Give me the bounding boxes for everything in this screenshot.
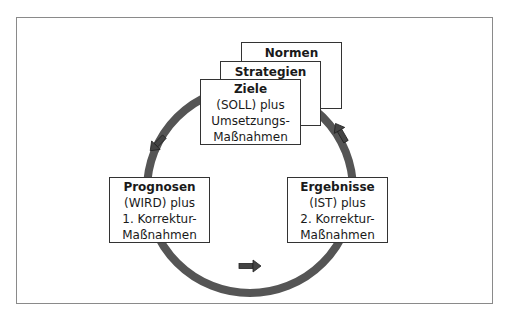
prognosen-box: Prognosen (WIRD) plus 1. Korrektur- Maßn… — [109, 177, 210, 243]
right-arrow-icon — [239, 260, 261, 272]
ergebnisse-box: Ergebnisse (IST) plus 2. Korrektur- Maßn… — [287, 177, 388, 243]
ergebnisse-line-2: 2. Korrektur- — [288, 211, 387, 227]
strategien-title: Strategien — [221, 62, 320, 80]
ziele-line-2: Umsetzungs- — [201, 113, 300, 129]
prognosen-line-1: (WIRD) plus — [110, 195, 209, 211]
normen-title: Normen — [242, 43, 341, 61]
ziele-line-1: (SOLL) plus — [201, 97, 300, 113]
ergebnisse-line-1: (IST) plus — [288, 195, 387, 211]
ziele-line-3: Maßnahmen — [201, 129, 300, 145]
prognosen-line-2: 1. Korrektur- — [110, 211, 209, 227]
ergebnisse-line-3: Maßnahmen — [288, 227, 387, 243]
prognosen-title: Prognosen — [110, 179, 209, 195]
ziele-box: Ziele (SOLL) plus Umsetzungs- Maßnahmen — [200, 79, 301, 145]
ziele-title: Ziele — [201, 81, 300, 97]
prognosen-line-3: Maßnahmen — [110, 227, 209, 243]
ergebnisse-title: Ergebnisse — [288, 179, 387, 195]
